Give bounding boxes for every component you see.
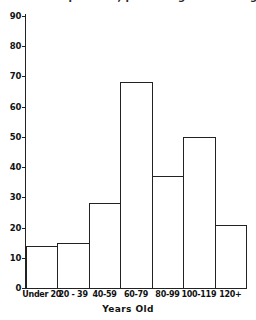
bar: [89, 203, 121, 289]
y-tick-label: 0: [0, 284, 21, 293]
x-tick: [26, 283, 27, 289]
x-tick: [246, 283, 247, 289]
y-tick: [22, 137, 26, 138]
y-tick-label: 70: [0, 72, 21, 81]
x-tick: [120, 283, 121, 289]
x-tick: [89, 283, 90, 289]
y-tick-label: 80: [0, 42, 21, 51]
chart-title-cropped: Age distribution of patients, percentage…: [0, 0, 256, 4]
y-tick-label: 10: [0, 254, 21, 263]
y-tick-label: 20: [0, 224, 21, 233]
y-tick: [22, 228, 26, 229]
bar: [57, 243, 89, 289]
histogram-chart: Age distribution of patients, percentage…: [0, 0, 256, 320]
y-tick-label: 40: [0, 163, 21, 172]
x-tick: [57, 283, 58, 289]
y-tick: [22, 16, 26, 17]
y-tick: [22, 107, 26, 108]
x-tick: [183, 283, 184, 289]
x-tick-label: 120+: [209, 291, 252, 300]
bar: [26, 246, 58, 289]
bar: [120, 82, 152, 289]
bar: [152, 176, 184, 289]
y-tick-label: 60: [0, 103, 21, 112]
y-tick: [22, 76, 26, 77]
y-tick-label: 50: [0, 133, 21, 142]
y-tick: [22, 167, 26, 168]
x-tick: [152, 283, 153, 289]
x-axis-title: Years Old: [0, 304, 256, 314]
bar: [183, 137, 215, 289]
x-tick: [215, 283, 216, 289]
y-tick: [22, 46, 26, 47]
chart-title-text: Age distribution of patients, percentage…: [0, 0, 256, 2]
y-tick-label: 90: [0, 12, 21, 21]
y-tick-label: 30: [0, 193, 21, 202]
bar: [215, 225, 247, 289]
y-tick: [22, 197, 26, 198]
